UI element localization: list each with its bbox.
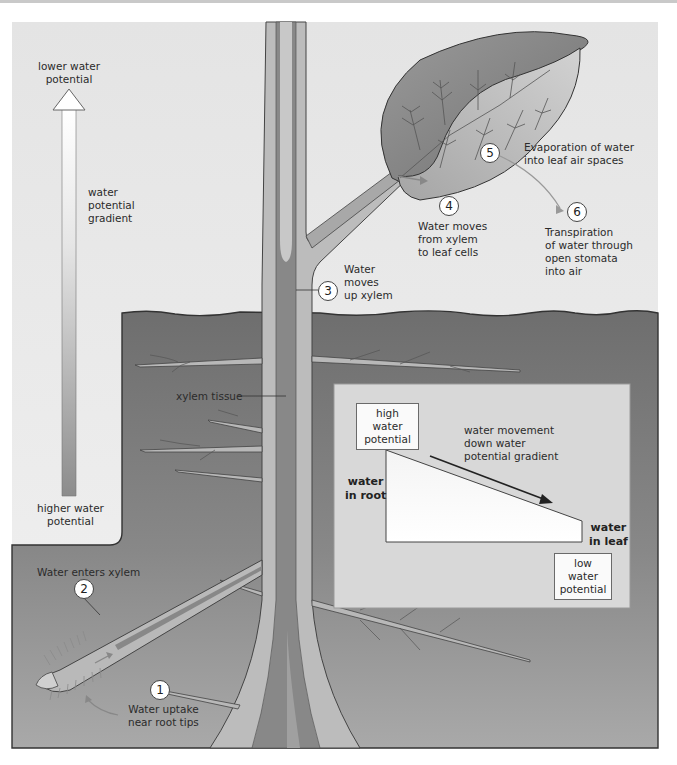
label-line: into air [545, 265, 633, 278]
water-movement-label: water movement down water potential grad… [464, 424, 558, 463]
water-in-leaf-label: water in leaf [589, 521, 628, 549]
higher-water-potential-label: higher water potential [37, 502, 104, 528]
water-in-root-label: water in root [345, 475, 386, 503]
label-line: in leaf [589, 535, 628, 549]
diagram-artwork [0, 0, 677, 765]
step-1-label: Water uptake near root tips [128, 703, 199, 729]
xylem-tissue-label: xylem tissue [176, 390, 242, 403]
label-line: open stomata [545, 252, 633, 265]
label-line: up xylem [344, 289, 393, 302]
label-line: high water [361, 407, 414, 433]
label-line: down water [464, 437, 558, 450]
label-line: potential [38, 73, 100, 86]
label-line: from xylem [418, 233, 487, 246]
label-line: Water moves [418, 220, 487, 233]
label-line: water [345, 475, 386, 489]
label-line: lower water [38, 60, 100, 73]
label-line: Water [344, 263, 393, 276]
low-water-potential-box: low water potential [554, 553, 612, 600]
water-potential-gradient-label: water potential gradient [88, 186, 135, 225]
label-line: potential [88, 199, 135, 212]
step-2-badge: 2 [74, 579, 94, 599]
step-3-label: Water moves up xylem [344, 263, 393, 302]
label-line: water [589, 521, 628, 535]
stem-inner-light [280, 22, 292, 262]
label-line: potential [37, 515, 104, 528]
label-line: water [88, 186, 135, 199]
label-line: gradient [88, 212, 135, 225]
step-5-badge: 5 [480, 143, 500, 163]
step-2-label: Water enters xylem [37, 566, 140, 579]
label-line: near root tips [128, 716, 199, 729]
label-line: higher water [37, 502, 104, 515]
high-water-potential-box: high water potential [356, 403, 419, 450]
label-line: Water uptake [128, 703, 199, 716]
label-line: water movement [464, 424, 558, 437]
label-line: Evaporation of water [524, 141, 634, 154]
step-3-badge: 3 [318, 281, 338, 301]
label-line: of water through [545, 239, 633, 252]
step-4-badge: 4 [439, 196, 459, 216]
label-line: low water [559, 557, 607, 583]
label-line: in root [345, 489, 386, 503]
step-6-badge: 6 [567, 202, 587, 222]
plant-water-transport-diagram: lower water potential water potential gr… [0, 0, 677, 765]
lower-water-potential-label: lower water potential [38, 60, 100, 86]
label-line: potential [361, 433, 414, 446]
step-5-label: Evaporation of water into leaf air space… [524, 141, 634, 167]
gradient-arrow-shaft [62, 108, 76, 496]
label-line: Transpiration [545, 226, 633, 239]
label-line: potential gradient [464, 450, 558, 463]
label-line: into leaf air spaces [524, 154, 634, 167]
label-line: to leaf cells [418, 246, 487, 259]
step-4-label: Water moves from xylem to leaf cells [418, 220, 487, 259]
label-line: moves [344, 276, 393, 289]
label-line: potential [559, 583, 607, 596]
step-1-badge: 1 [150, 680, 170, 700]
step-6-label: Transpiration of water through open stom… [545, 226, 633, 278]
